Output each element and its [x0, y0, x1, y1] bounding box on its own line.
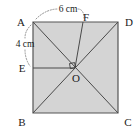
vertex-label-b: B	[18, 116, 25, 128]
dimension-label-left: 4 cm	[16, 39, 35, 49]
geometry-figure-container: A D B C E F O 6 cm 4 cm	[0, 0, 139, 131]
vertex-label-a: A	[17, 16, 25, 28]
vertex-label-d: D	[125, 16, 133, 28]
leader-line-left-lower	[25, 50, 30, 66]
vertex-label-o: O	[72, 72, 80, 84]
dimension-label-top: 6 cm	[59, 4, 78, 14]
vertex-label-c: C	[124, 116, 131, 128]
leader-line-top-left	[36, 9, 58, 19]
leader-line-left-upper	[25, 25, 31, 38]
vertex-label-f: F	[83, 11, 89, 23]
vertex-label-e: E	[19, 62, 26, 74]
geometry-diagram: A D B C E F O 6 cm 4 cm	[0, 0, 139, 131]
